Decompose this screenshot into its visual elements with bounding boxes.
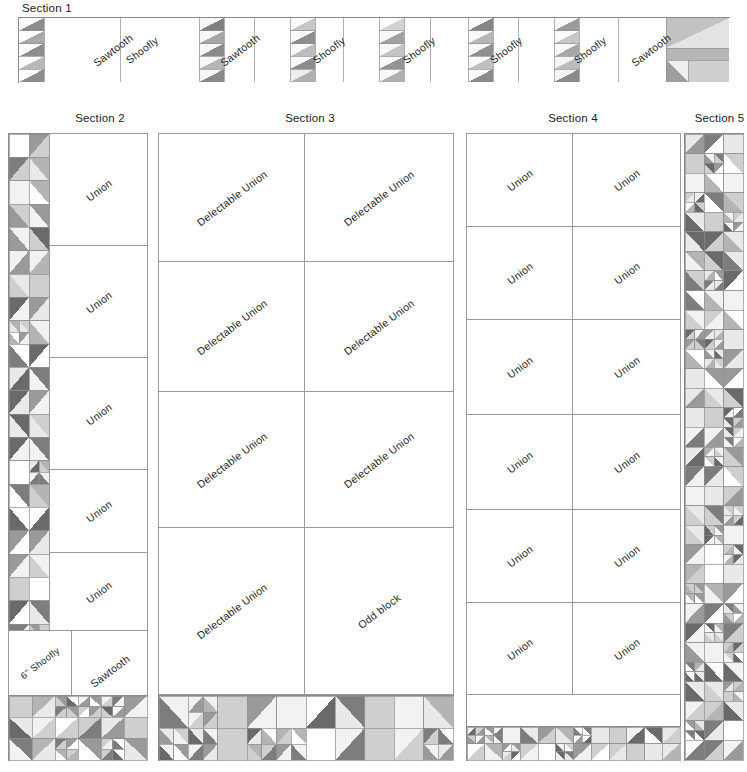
- block-label: Shoofly: [400, 34, 437, 66]
- block-label: Union: [611, 354, 641, 381]
- section-2-block-union-5[interactable]: Union: [49, 552, 148, 631]
- section-2-block-union-4[interactable]: Union: [49, 469, 148, 553]
- block-label: 6" Shoofly: [18, 645, 61, 681]
- section-4-bottom-border-strip: [466, 726, 681, 761]
- section-4-block-2[interactable]: Union: [572, 133, 681, 227]
- section-1-block-shoofly-1[interactable]: Shoofly: [103, 18, 181, 82]
- section-2-bottom-piecing: [8, 695, 148, 761]
- section-2-strip-piecing: [8, 133, 50, 695]
- section-3-block-7[interactable]: Delectable Union: [158, 527, 305, 695]
- block-label: Delectable Union: [342, 296, 417, 357]
- block-label: Union: [83, 498, 113, 525]
- section-3-block-odd[interactable]: Odd block: [304, 527, 454, 695]
- section-4-block-5[interactable]: Union: [466, 319, 573, 415]
- section-1-block-sawtooth-2[interactable]: Sawtooth: [207, 18, 273, 82]
- block-label: Union: [504, 635, 534, 662]
- section-2-block-union-1[interactable]: Union: [49, 133, 148, 246]
- section-3-block-2[interactable]: Delectable Union: [304, 133, 454, 262]
- section-2-block-union-2[interactable]: Union: [49, 245, 148, 358]
- section-2-label: Section 2: [60, 112, 140, 124]
- section-4-block-7[interactable]: Union: [466, 414, 573, 510]
- section-4-block-8[interactable]: Union: [572, 414, 681, 510]
- block-label: Union: [83, 288, 113, 315]
- section-1-block-shoofly-5[interactable]: Shoofly: [562, 18, 618, 82]
- block-label: Union: [611, 543, 641, 570]
- section-3-bottom-border-strip: [158, 695, 454, 761]
- section-4-block-4[interactable]: Union: [572, 226, 681, 320]
- section-2-bottom-border-strip: [8, 695, 148, 761]
- section-4-block-9[interactable]: Union: [466, 509, 573, 603]
- block-label: Union: [611, 260, 641, 287]
- section-2-block-union-3[interactable]: Union: [49, 357, 148, 470]
- section-3-bottom-piecing: [158, 695, 454, 761]
- block-label: Shoofly: [572, 34, 609, 66]
- section-4-block-6[interactable]: Union: [572, 319, 681, 415]
- section-1-block-sawtooth-3[interactable]: Sawtooth: [619, 18, 683, 82]
- section-5-panel: [684, 133, 744, 761]
- block-label: Delectable Union: [194, 581, 269, 642]
- block-label: Union: [611, 167, 641, 194]
- section-2-left-border-strip: [8, 133, 50, 695]
- block-label: Union: [611, 635, 641, 662]
- section-3-block-5[interactable]: Delectable Union: [158, 391, 305, 528]
- block-label: Shoofly: [124, 34, 161, 66]
- block-label: Shoofly: [488, 34, 525, 66]
- block-label: Sawtooth: [218, 31, 262, 68]
- block-label: Union: [504, 449, 534, 476]
- block-label: Union: [504, 354, 534, 381]
- block-label: Shoofly: [311, 34, 348, 66]
- section-5-piecing: [684, 133, 744, 761]
- section-3-block-4[interactable]: Delectable Union: [304, 261, 454, 392]
- section-4-bottom-piecing: [466, 726, 681, 761]
- section-4-label: Section 4: [528, 112, 618, 124]
- block-label: Delectable Union: [342, 429, 417, 490]
- section-4-block-1[interactable]: Union: [466, 133, 573, 227]
- section-4-block-3[interactable]: Union: [466, 226, 573, 320]
- block-label: Odd block: [355, 591, 402, 631]
- section-5-label: Section 5: [692, 112, 747, 124]
- block-label: Sawtooth: [629, 31, 673, 68]
- block-label: Delectable Union: [194, 429, 269, 490]
- section-3-block-3[interactable]: Delectable Union: [158, 261, 305, 392]
- block-label: Delectable Union: [194, 167, 269, 228]
- section-4-block-10[interactable]: Union: [572, 509, 681, 603]
- block-label: Delectable Union: [194, 296, 269, 357]
- section-3-block-6[interactable]: Delectable Union: [304, 391, 454, 528]
- section-1-block-shoofly-2[interactable]: Shoofly: [297, 18, 361, 82]
- block-label: Union: [83, 578, 113, 605]
- section-3-block-1[interactable]: Delectable Union: [158, 133, 305, 262]
- section-2-block-6in-shoofly[interactable]: 6" Shoofly: [8, 630, 72, 696]
- block-label: Union: [504, 260, 534, 287]
- section-1-block-shoofly-4[interactable]: Shoofly: [476, 18, 536, 82]
- section-3-label: Section 3: [265, 112, 355, 124]
- section-4-block-11[interactable]: Union: [466, 602, 573, 695]
- quilt-diagram-canvas: Section 1: [0, 0, 747, 772]
- block-label: Union: [504, 543, 534, 570]
- block-label: Union: [504, 167, 534, 194]
- block-label: Union: [83, 400, 113, 427]
- block-label: Sawtooth: [87, 652, 131, 689]
- section-1-block-shoofly-3[interactable]: Shoofly: [387, 18, 450, 82]
- block-label: Delectable Union: [342, 167, 417, 228]
- section-1-label: Section 1: [22, 2, 72, 14]
- block-label: Union: [83, 176, 113, 203]
- section-4-block-12[interactable]: Union: [572, 602, 681, 695]
- block-label: Union: [611, 449, 641, 476]
